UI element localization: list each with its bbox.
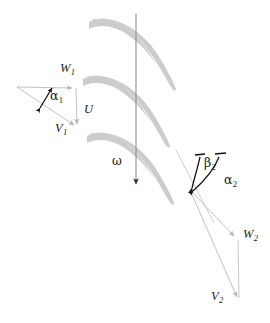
vector-v1 (17, 87, 74, 125)
vector-u2-connector (238, 240, 239, 298)
blade-shape-3 (88, 133, 174, 205)
label-alpha1: α1 (50, 90, 63, 103)
angle-marker-beta2 (192, 157, 200, 188)
label-w1: W1 (60, 62, 75, 75)
blade-cascade (83, 19, 176, 205)
label-w2: W2 (243, 228, 258, 241)
vector-w2 (190, 190, 234, 236)
label-omega: ω (112, 155, 122, 167)
label-v2: V2 (211, 290, 223, 303)
label-v1: V1 (55, 122, 67, 135)
alpha2-tick-bar (215, 153, 226, 154)
inlet-velocity-triangle (17, 87, 77, 125)
label-alpha2: α2 (224, 174, 237, 187)
label-beta2: β2 (204, 157, 215, 170)
velocity-triangle-figure: W1 U V1 α1 ω β2 α2 W2 V2 (0, 0, 270, 323)
vector-u (76, 88, 77, 124)
vector-v2 (190, 190, 237, 297)
vector-w1 (17, 87, 72, 88)
label-u: U (84, 103, 93, 116)
figure-canvas (0, 0, 270, 323)
